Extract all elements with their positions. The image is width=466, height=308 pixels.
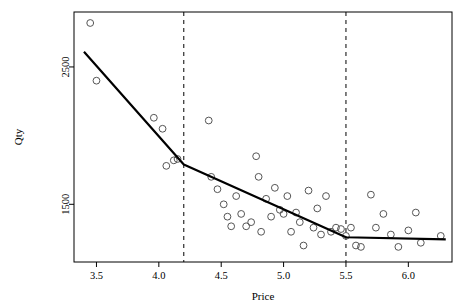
data-point bbox=[318, 231, 325, 238]
x-tick-label: 5.5 bbox=[339, 270, 352, 281]
data-point bbox=[284, 193, 291, 200]
scatter-chart: 3.54.04.55.05.56.015002500PriceQty Qty P… bbox=[0, 0, 466, 308]
data-point bbox=[258, 228, 265, 235]
data-point bbox=[238, 211, 245, 218]
data-point bbox=[93, 77, 100, 84]
data-point bbox=[296, 219, 303, 226]
plot-frame bbox=[74, 12, 452, 262]
x-tick-label: 3.5 bbox=[90, 270, 103, 281]
data-point bbox=[380, 211, 387, 218]
data-point bbox=[228, 223, 235, 230]
data-point bbox=[268, 213, 275, 220]
data-point bbox=[373, 224, 380, 231]
data-point bbox=[150, 114, 157, 121]
x-tick-label: 5.0 bbox=[277, 270, 290, 281]
data-point bbox=[314, 205, 321, 212]
data-point bbox=[395, 243, 402, 250]
data-point bbox=[224, 213, 231, 220]
data-point bbox=[255, 173, 262, 180]
data-point bbox=[248, 219, 255, 226]
data-point bbox=[417, 239, 424, 246]
data-point bbox=[159, 125, 166, 132]
fit-line bbox=[84, 52, 446, 240]
data-point bbox=[87, 20, 94, 27]
data-point bbox=[163, 162, 170, 169]
x-tick-label: 4.0 bbox=[152, 270, 165, 281]
y-axis-label: Qty bbox=[12, 128, 24, 145]
plot-area: 3.54.04.55.05.56.015002500PriceQty bbox=[0, 0, 466, 308]
data-point bbox=[412, 209, 419, 216]
x-axis-label: Price bbox=[252, 290, 275, 302]
data-point bbox=[368, 191, 375, 198]
data-point bbox=[405, 227, 412, 234]
data-point bbox=[348, 224, 355, 231]
data-point bbox=[214, 186, 221, 193]
x-tick-label: 4.5 bbox=[215, 270, 228, 281]
data-point bbox=[233, 193, 240, 200]
data-point bbox=[310, 224, 317, 231]
data-point bbox=[305, 187, 312, 194]
x-tick-label: 6.0 bbox=[402, 270, 415, 281]
y-tick-label: 1500 bbox=[60, 194, 71, 215]
data-point bbox=[253, 153, 260, 160]
data-point bbox=[387, 231, 394, 238]
data-point bbox=[323, 193, 330, 200]
data-point bbox=[220, 201, 227, 208]
data-point bbox=[300, 242, 307, 249]
y-tick-label: 2500 bbox=[60, 56, 71, 77]
data-point bbox=[205, 117, 212, 124]
data-point bbox=[271, 184, 278, 191]
data-point bbox=[288, 228, 295, 235]
